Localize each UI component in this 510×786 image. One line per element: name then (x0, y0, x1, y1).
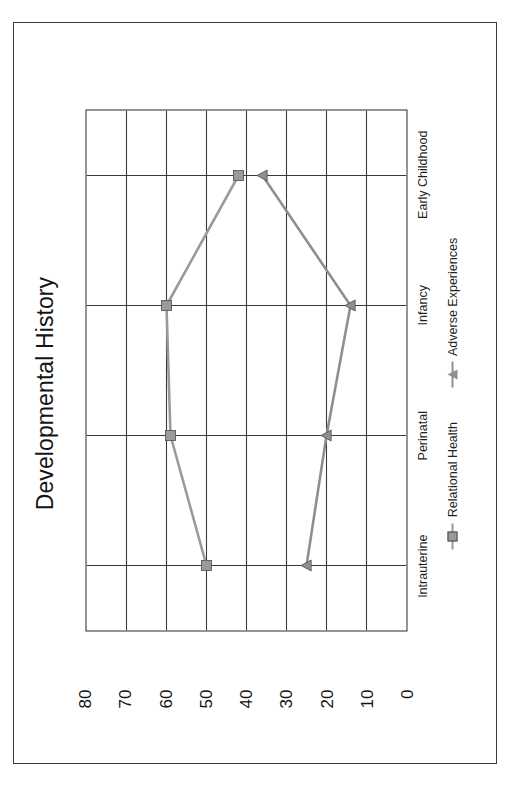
rotated-chart-wrapper: Developmental History 80 70 60 50 40 30 … (28, 43, 483, 743)
y-tick-label: 80 (76, 689, 96, 729)
y-tick-label: 50 (196, 689, 216, 729)
legend-square-icon (448, 531, 458, 541)
legend-item-relational-health[interactable]: Relational Health (446, 421, 460, 548)
data-point-marker[interactable] (257, 170, 267, 181)
chart-legend: Relational Health Adverse Experiences (446, 43, 460, 743)
x-tick-label-early-childhood: Early Childhood (416, 130, 430, 218)
y-tick-label: 0 (398, 689, 418, 729)
y-tick-label: 70 (116, 689, 136, 729)
legend-item-adverse-experiences[interactable]: Adverse Experiences (446, 237, 460, 387)
legend-label: Adverse Experiences (446, 237, 460, 355)
x-tick-label-perinatal: Perinatal (416, 411, 430, 460)
series-line-1 (263, 175, 351, 565)
data-point-marker[interactable] (202, 560, 212, 570)
legend-marker-triangle-icon (448, 361, 458, 387)
y-tick-label: 30 (277, 689, 297, 729)
x-tick-label-intrauterine: Intrauterine (416, 534, 430, 597)
y-tick-label: 60 (156, 689, 176, 729)
legend-label: Relational Health (446, 421, 460, 516)
figure-frame: Developmental History 80 70 60 50 40 30 … (13, 22, 497, 764)
x-tick-label-infancy: Infancy (416, 285, 430, 325)
gridlines (87, 110, 407, 630)
legend-marker-square-icon (448, 523, 458, 549)
y-tick-label: 40 (237, 689, 257, 729)
plot-area (86, 109, 408, 631)
chart-plot-svg (87, 110, 407, 630)
data-point-marker[interactable] (234, 170, 244, 180)
chart-title: Developmental History (32, 43, 59, 743)
legend-triangle-icon (448, 369, 458, 379)
data-point-marker[interactable] (162, 300, 172, 310)
y-tick-label: 10 (357, 689, 377, 729)
chart-area: Developmental History 80 70 60 50 40 30 … (28, 43, 483, 743)
y-tick-label: 20 (317, 689, 337, 729)
data-point-marker[interactable] (166, 430, 176, 440)
series-line-0 (167, 175, 239, 565)
